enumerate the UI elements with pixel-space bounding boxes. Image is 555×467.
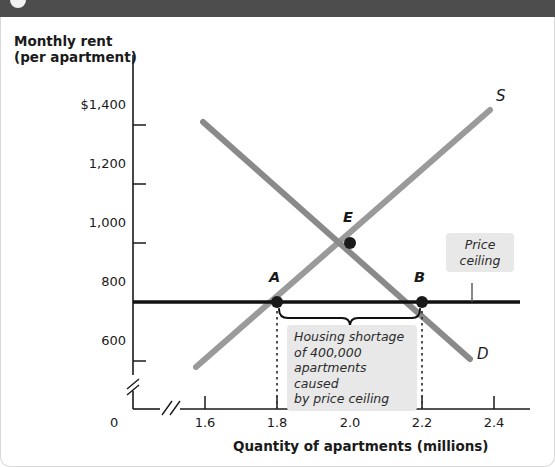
x-tick-label-1-8: 1.8 — [247, 415, 307, 430]
y-tick-label-1000: 1,000 — [34, 215, 126, 230]
shortage-callout-line2: of 400,000 — [294, 345, 362, 360]
y-axis-break-mark-1 — [127, 379, 139, 389]
shortage-brace — [279, 309, 420, 326]
shortage-callout: Housing shortage of 400,000 apartments c… — [287, 325, 417, 411]
y-axis-title: Monthly rent (per apartment) — [14, 33, 137, 65]
x-axis-title: Quantity of apartments (millions) — [233, 438, 489, 454]
y-tick-label-800: 800 — [34, 274, 126, 289]
price-ceiling-callout: Price ceiling — [446, 233, 514, 272]
point-label-B: B — [414, 269, 425, 285]
y-tick-label-1400: $1,400 — [34, 97, 126, 112]
point-label-A: A — [269, 269, 280, 285]
x-tick-label-2-4: 2.4 — [464, 415, 524, 430]
supply-curve-label: S — [496, 87, 506, 105]
y-tick-label-1200: 1,200 — [34, 156, 126, 171]
point-marker-A — [271, 296, 283, 308]
point-label-E: E — [343, 209, 353, 225]
chart-plot-area: Monthly rent (per apartment) $1,400 1,20… — [0, 17, 555, 467]
y-axis-title-line1: Monthly rent — [14, 33, 112, 49]
y-axis-title-line2: (per apartment) — [14, 49, 137, 65]
shortage-callout-line3: apartments caused — [294, 360, 367, 391]
figure-number-badge — [10, 0, 26, 8]
point-marker-B — [416, 296, 428, 308]
shortage-callout-line1: Housing shortage — [294, 329, 404, 344]
x-tick-label-2-2: 2.2 — [392, 415, 452, 430]
y-tick-label-600: 600 — [34, 333, 126, 348]
x-tick-label-1-6: 1.6 — [175, 415, 235, 430]
figure-container: Monthly rent (per apartment) $1,400 1,20… — [0, 0, 555, 467]
demand-curve-label: D — [477, 345, 489, 363]
price-ceiling-callout-line1: Price — [465, 237, 496, 252]
figure-header-band — [0, 0, 555, 17]
x-tick-label-2-0: 2.0 — [320, 415, 380, 430]
origin-label: 0 — [110, 415, 118, 430]
shortage-callout-line4: by price ceiling — [294, 391, 389, 406]
price-ceiling-callout-line2: ceiling — [460, 253, 501, 268]
x-axis-break-mark-1 — [162, 401, 172, 415]
x-axis-break-mark-2 — [170, 401, 180, 415]
point-marker-E — [344, 237, 356, 249]
